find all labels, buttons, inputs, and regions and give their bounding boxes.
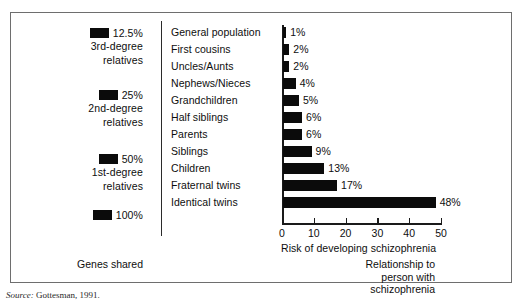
genes-shared-legend: 12.5% 3rd-degree relatives 25% 2nd-degre… bbox=[11, 13, 161, 282]
legend-swatch-icon bbox=[93, 210, 112, 220]
legend-percent: 12.5% bbox=[113, 28, 143, 39]
bar-grandchildren bbox=[283, 95, 299, 106]
bar-value-label: 1% bbox=[290, 26, 305, 38]
x-tick-label: 50 bbox=[435, 227, 447, 239]
bar-general-population bbox=[283, 27, 286, 38]
x-tick-label: 40 bbox=[403, 227, 415, 239]
x-tick bbox=[282, 218, 283, 223]
bar-value-label: 9% bbox=[316, 145, 331, 157]
source-text: Gottesman, 1991. bbox=[36, 290, 100, 300]
legend-percent: 100% bbox=[116, 210, 143, 221]
bar-value-label: 6% bbox=[306, 128, 321, 140]
bar-value-label: 2% bbox=[293, 60, 308, 72]
legend-group-identical: 100% bbox=[11, 209, 143, 221]
legend-group-3rd-degree: 12.5% 3rd-degree relatives bbox=[11, 27, 143, 66]
x-tick bbox=[441, 218, 442, 223]
bar-value-label: 2% bbox=[293, 43, 308, 55]
bar-value-label: 13% bbox=[328, 162, 349, 174]
bar-value-label: 48% bbox=[440, 196, 461, 208]
x-tick-label: 0 bbox=[279, 227, 285, 239]
x-tick bbox=[314, 218, 315, 223]
x-axis-line bbox=[282, 223, 442, 225]
source-line: Source: Gottesman, 1991. bbox=[6, 290, 100, 301]
legend-subtitle-line1: 2nd-degree bbox=[11, 102, 143, 115]
bar-half-siblings bbox=[283, 112, 302, 123]
legend-head: 50% bbox=[11, 153, 143, 165]
x-tick-label: 20 bbox=[340, 227, 352, 239]
legend-subtitle-line1: 3rd-degree bbox=[11, 40, 143, 53]
legend-head: 100% bbox=[11, 209, 143, 221]
bar-chart: 1%2%2%4%5%6%6%9%13%17%48% 01020304050 Ri… bbox=[269, 13, 511, 282]
relationship-caption-line3: schizophrenia bbox=[331, 283, 435, 296]
x-tick bbox=[377, 218, 378, 223]
plot-area: 1%2%2%4%5%6%6%9%13%17%48% 01020304050 Ri… bbox=[282, 25, 514, 232]
bar-children bbox=[283, 163, 324, 174]
legend-swatch-icon bbox=[99, 154, 118, 164]
x-tick bbox=[409, 218, 410, 223]
x-tick-label: 10 bbox=[308, 227, 320, 239]
x-axis-title: Risk of developing schizophrenia bbox=[281, 242, 436, 254]
legend-subtitle-line2: relatives bbox=[11, 180, 143, 193]
legend-swatch-icon bbox=[90, 28, 109, 38]
genes-shared-caption: Genes shared bbox=[11, 258, 143, 270]
source-label: Source: bbox=[6, 290, 34, 300]
legend-percent: 25% bbox=[122, 90, 143, 101]
bar-value-label: 6% bbox=[306, 111, 321, 123]
bar-value-label: 17% bbox=[341, 179, 362, 191]
figure-frame: 12.5% 3rd-degree relatives 25% 2nd-degre… bbox=[10, 12, 512, 283]
legend-group-2nd-degree: 25% 2nd-degree relatives bbox=[11, 89, 143, 128]
relationship-labels-column: General population First cousins Uncles/… bbox=[171, 13, 271, 282]
legend-subtitle-line2: relatives bbox=[11, 54, 143, 67]
bar-identical-twins bbox=[283, 197, 436, 208]
bar-first-cousins bbox=[283, 44, 289, 55]
legend-percent: 50% bbox=[122, 154, 143, 165]
legend-swatch-icon bbox=[99, 90, 118, 100]
bar-value-label: 4% bbox=[300, 77, 315, 89]
legend-head: 25% bbox=[11, 89, 143, 101]
cropped-header-sliver bbox=[150, 0, 400, 7]
column-divider bbox=[161, 21, 162, 236]
bar-parents bbox=[283, 129, 302, 140]
x-tick bbox=[346, 218, 347, 223]
legend-subtitle-line1: 1st-degree bbox=[11, 166, 143, 179]
legend-head: 12.5% bbox=[11, 27, 143, 39]
bar-uncles-aunts bbox=[283, 61, 289, 72]
bar-siblings bbox=[283, 146, 312, 157]
bar-nephews-nieces bbox=[283, 78, 296, 89]
legend-group-1st-degree: 50% 1st-degree relatives bbox=[11, 153, 143, 192]
bar-fraternal-twins bbox=[283, 180, 337, 191]
x-tick-label: 30 bbox=[372, 227, 384, 239]
bar-value-label: 5% bbox=[303, 94, 318, 106]
legend-subtitle-line2: relatives bbox=[11, 116, 143, 129]
